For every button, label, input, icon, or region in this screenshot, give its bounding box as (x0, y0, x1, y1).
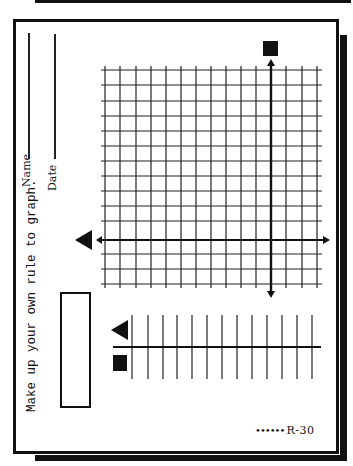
footer-dots: •••••• (255, 425, 284, 436)
page-code-text: R-30 (286, 424, 314, 437)
table-square-row-icon (113, 355, 127, 371)
input-output-table[interactable] (0, 0, 353, 466)
table-triangle-row-icon (111, 320, 128, 340)
page-code: ••••••R-30 (255, 424, 314, 437)
